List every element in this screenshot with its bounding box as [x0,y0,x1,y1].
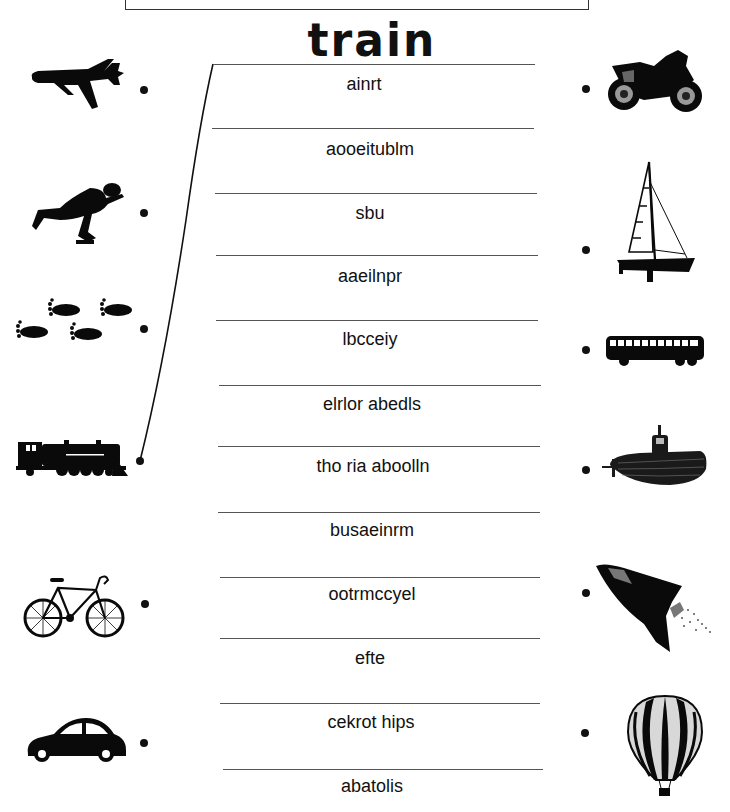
left-dot-skater[interactable] [140,209,148,217]
answer-line-3[interactable] [215,193,537,194]
scrambled-word: lbcceiy [200,329,540,350]
scrambled-word: abatolis [202,776,542,797]
scrambled-word: cekrot hips [201,712,541,733]
sailboat-icon [615,160,697,284]
answer-line-11[interactable] [220,703,540,704]
footprints-icon [12,296,132,348]
answer-line-4[interactable] [216,255,538,256]
answer-line-5[interactable] [216,320,538,321]
bicycle-icon [22,572,128,642]
motorcycle-icon [604,46,704,118]
car-icon [24,714,130,766]
answer-line-10[interactable] [220,638,540,639]
right-dot-balloon[interactable] [581,729,589,737]
right-dot-shuttle[interactable] [582,589,590,597]
answer-line-2[interactable] [212,128,534,129]
left-dot-airplane[interactable] [140,86,148,94]
scrambled-word: aooeitublm [200,139,540,160]
airplane-icon [28,55,128,115]
scrambled-word: efte [200,648,540,669]
roller-skater-icon [30,180,130,250]
scrambled-word: busaeinrm [202,520,542,541]
submarine-icon [600,423,710,489]
answer-line-7[interactable] [218,446,540,447]
answer-line-9[interactable] [220,577,540,578]
space-shuttle-icon [594,562,720,654]
answer-line-12[interactable] [223,769,543,770]
bus-icon [604,334,706,368]
right-dot-motorcycle[interactable] [582,85,590,93]
answer-line-1[interactable] [213,64,535,65]
right-dot-sailboat[interactable] [582,246,590,254]
answer-line-8[interactable] [218,512,540,513]
scrambled-word: aaeilnpr [200,266,540,287]
left-dot-car[interactable] [140,739,148,747]
left-dot-train[interactable] [136,457,144,465]
steam-train-icon [16,440,130,480]
scrambled-word: ootrmccyel [202,584,542,605]
scrambled-word: sbu [200,203,540,224]
scrambled-word: elrlor abedls [202,394,542,415]
left-dot-footprints[interactable] [140,325,148,333]
right-dot-bus[interactable] [582,346,590,354]
hot-air-balloon-icon [626,694,704,798]
scrambled-word: ainrt [194,74,534,95]
left-dot-bicycle[interactable] [141,600,149,608]
answer-line-6[interactable] [219,385,541,386]
scrambled-word: tho ria aboolln [203,456,543,477]
right-dot-submarine[interactable] [582,466,590,474]
